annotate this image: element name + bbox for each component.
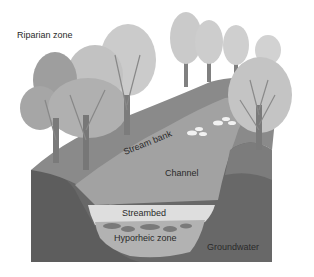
label-riparian-zone: Riparian zone [17, 30, 73, 40]
label-hyporheic-zone: Hyporheic zone [114, 233, 177, 243]
tree [195, 20, 223, 82]
riparian-diagram: Riparian zone Stream bank Channel Stream… [0, 0, 314, 277]
label-streambed: Streambed [122, 208, 166, 218]
label-channel: Channel [165, 168, 199, 178]
label-groundwater: Groundwater [207, 242, 259, 252]
